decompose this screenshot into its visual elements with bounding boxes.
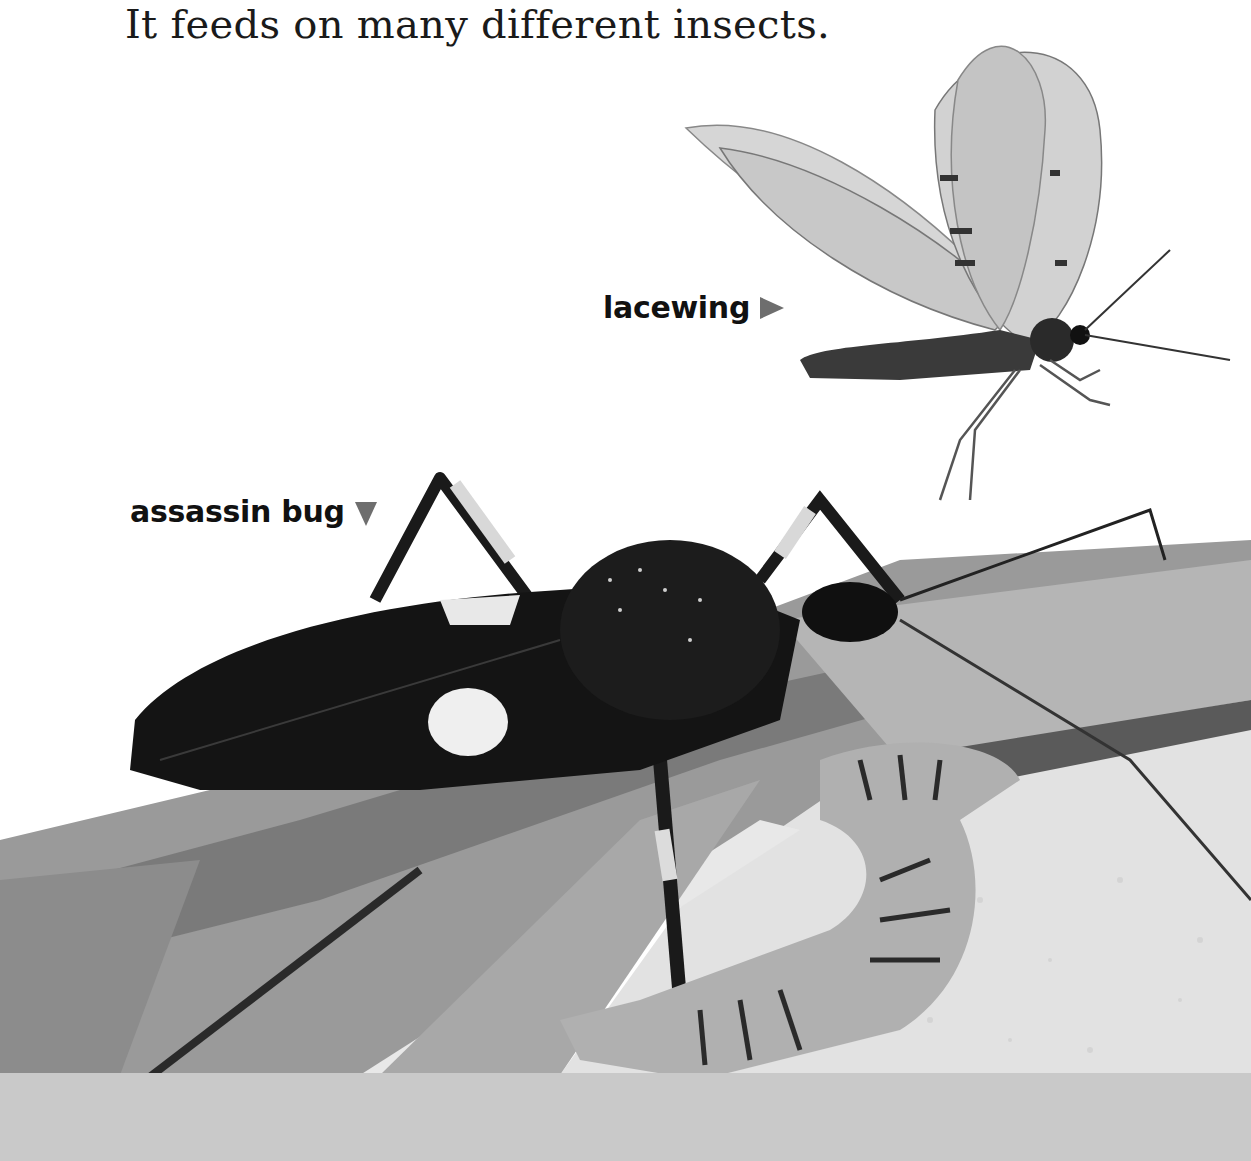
lacewing-label-text: lacewing bbox=[603, 290, 750, 325]
lacewing-label: lacewing bbox=[603, 290, 784, 325]
right-triangle-icon bbox=[760, 297, 784, 319]
bottom-band bbox=[0, 1073, 1251, 1161]
assassin-bug-label: assassin bug bbox=[130, 494, 377, 529]
down-triangle-icon bbox=[355, 502, 377, 526]
assassin-bug-label-text: assassin bug bbox=[130, 494, 345, 529]
insect-photo bbox=[0, 0, 1251, 1161]
